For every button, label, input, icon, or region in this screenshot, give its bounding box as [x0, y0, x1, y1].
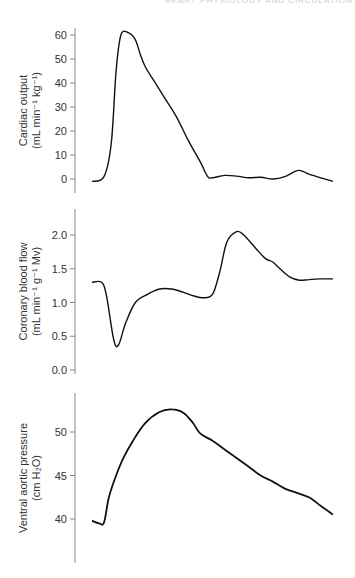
- y-axis-title: Cardiac output: [17, 75, 29, 147]
- y-tick-label: 60: [55, 29, 67, 41]
- cardiac-output-panel: 0102030405060Cardiac output(mL min⁻¹ kg⁻…: [17, 28, 333, 193]
- y-tick-label: 0: [61, 173, 67, 185]
- y-tick-label: 45: [55, 470, 67, 482]
- coronary-blood-flow-trace: [92, 231, 333, 346]
- y-tick-label: 1.5: [52, 263, 67, 275]
- y-tick-label: 40: [55, 77, 67, 89]
- y-tick-label: 2.0: [52, 229, 67, 241]
- y-axis-title: Coronary blood flow: [17, 243, 29, 341]
- y-tick-label: 40: [55, 513, 67, 525]
- y-axis-title: Ventral aortic pressure: [17, 423, 29, 533]
- y-tick-label: 1.0: [52, 297, 67, 309]
- ventral-aortic-pressure-trace: [92, 409, 333, 524]
- y-tick-label: 10: [55, 149, 67, 161]
- y-axis-title-units: (mL min⁻¹ g⁻¹ Mv): [30, 247, 42, 336]
- y-tick-label: 20: [55, 125, 67, 137]
- y-tick-label: 50: [55, 426, 67, 438]
- y-axis-title-units: (mL min⁻¹ kg⁻¹): [30, 72, 42, 149]
- y-tick-label: 50: [55, 53, 67, 65]
- y-tick-label: 30: [55, 101, 67, 113]
- ventral-aortic-pressure-panel: 404550Ventral aortic pressure(cm H₂O): [17, 393, 333, 563]
- y-axis-title-units: (cm H₂O): [30, 455, 42, 501]
- cardiac-output-trace: [92, 31, 333, 181]
- coronary-blood-flow-panel: 0.00.51.01.52.0Coronary blood flow(mL mi…: [17, 209, 333, 376]
- y-tick-label: 0.5: [52, 330, 67, 342]
- chart-figure: 0102030405060Cardiac output(mL min⁻¹ kg⁻…: [0, 0, 355, 578]
- y-tick-label: 0.0: [52, 364, 67, 376]
